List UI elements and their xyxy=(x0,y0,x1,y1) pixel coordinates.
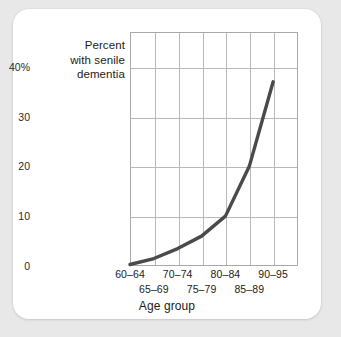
x-tick-label: 60–64 xyxy=(115,268,145,280)
x-tick-label: 75–79 xyxy=(187,283,217,295)
y-tick-label: 0 xyxy=(0,260,30,272)
y-axis-title-line-2: with senile xyxy=(21,53,125,68)
senile-dementia-line-chart: Percent with senile dementia 40% 30 20 1… xyxy=(13,9,321,319)
y-tick-label: 30 xyxy=(0,111,30,123)
y-axis-title-line-3: dementia xyxy=(21,67,125,82)
x-tick-label: 85–89 xyxy=(234,283,264,295)
y-tick-label: 40% xyxy=(0,61,30,73)
x-tick-label: 65–69 xyxy=(139,283,169,295)
dementia-trend-polyline xyxy=(130,82,273,265)
x-tick-label: 70–74 xyxy=(163,268,193,280)
x-tick-label: 80–84 xyxy=(211,268,241,280)
figure-card: Percent with senile dementia 40% 30 20 1… xyxy=(13,9,321,319)
y-axis-title: Percent with senile dementia xyxy=(21,38,125,82)
x-tick-label: 90–95 xyxy=(258,268,288,280)
y-tick-label: 10 xyxy=(0,210,30,222)
data-series-line xyxy=(130,32,298,266)
x-axis-title: Age group xyxy=(13,299,321,313)
y-tick-label: 20 xyxy=(0,160,30,172)
y-axis-title-line-1: Percent xyxy=(21,38,125,53)
